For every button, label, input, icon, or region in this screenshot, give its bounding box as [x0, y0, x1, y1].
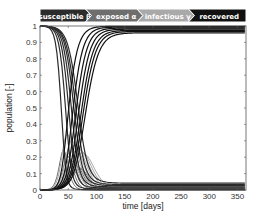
y-tick-label: 0.8 [26, 55, 38, 64]
x-tick-label: 250 [174, 192, 188, 201]
y-tick-label: 0.1 [26, 170, 38, 179]
x-tick-label: 350 [231, 192, 245, 201]
x-tick-label: 100 [90, 192, 104, 201]
y-tick-label: 0.5 [26, 104, 38, 113]
x-tick-label: 300 [203, 192, 217, 201]
x-tick-label: 0 [38, 192, 43, 201]
x-tick-label: 50 [64, 192, 73, 201]
x-axis-label: time [days] [122, 201, 163, 211]
y-tick-label: 0.2 [26, 153, 38, 162]
y-tick-label: 0.7 [26, 71, 38, 80]
seir-line-chart: 00.10.20.30.40.50.60.70.80.91 0501001502… [0, 0, 257, 224]
y-tick-label: 0.3 [26, 137, 38, 146]
y-tick-label: 0.4 [26, 120, 38, 129]
recovered-curve-3 [40, 29, 245, 190]
x-tick-label: 200 [146, 192, 160, 201]
y-tick-label: 0.9 [26, 38, 38, 47]
x-tick-label: 150 [118, 192, 132, 201]
plot-curves [40, 26, 245, 190]
y-tick-label: 1 [33, 22, 38, 31]
y-tick-label: 0.6 [26, 88, 38, 97]
y-axis-label: population [-] [4, 83, 14, 132]
